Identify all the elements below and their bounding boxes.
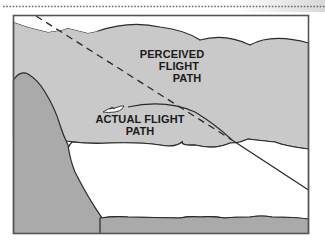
actual-flight-path-label: ACTUAL FLIGHT PATH <box>80 113 200 137</box>
perceived-label-line-1: PERCEIVED <box>122 48 222 60</box>
clear-air-region <box>68 139 309 219</box>
perceived-label-line-2: FLIGHT <box>122 60 222 72</box>
actual-label-line-1: ACTUAL FLIGHT <box>80 113 200 125</box>
perceived-flight-path-label: PERCEIVED FLIGHT PATH <box>122 48 222 84</box>
ground-strip <box>100 216 309 234</box>
actual-label-line-2: PATH <box>80 125 200 137</box>
perceived-label-line-3: PATH <box>122 72 222 84</box>
